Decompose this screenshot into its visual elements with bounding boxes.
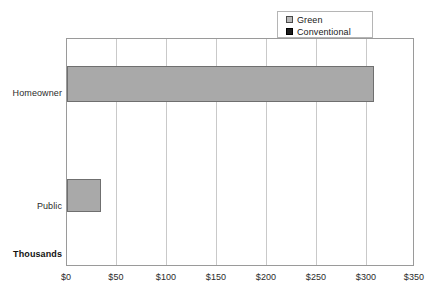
x-axis-tick-100: $100 [156, 272, 176, 282]
legend-label-green: Green [297, 15, 323, 25]
bar-homeowner-green[interactable] [67, 66, 374, 102]
y-axis-labels: Homeowner Public Thousands [0, 0, 62, 298]
legend-label-conventional: Conventional [297, 27, 351, 37]
bar-public-green[interactable] [67, 179, 101, 212]
green-swatch-icon [286, 16, 293, 23]
plot-area [66, 38, 414, 266]
y-axis-tick-homeowner: Homeowner [13, 88, 62, 98]
x-axis-tick-350: $350 [404, 272, 424, 282]
x-axis-tick-50: $50 [108, 272, 123, 282]
chart-screenshot: Homeowner Public Thousands $0 $50 $100 $… [0, 0, 436, 298]
x-axis-tick-250: $250 [306, 272, 326, 282]
units-label: Thousands [13, 249, 62, 259]
y-axis-tick-public: Public [37, 201, 62, 211]
legend-item-conventional[interactable]: Conventional [286, 26, 372, 37]
x-axis-tick-200: $200 [256, 272, 276, 282]
conventional-swatch-icon [286, 28, 293, 35]
chart-legend[interactable]: Green Conventional [277, 11, 373, 38]
legend-item-green[interactable]: Green [286, 14, 372, 25]
x-axis-tick-0: $0 [61, 272, 71, 282]
x-axis-tick-150: $150 [206, 272, 226, 282]
x-axis-tick-300: $300 [356, 272, 376, 282]
